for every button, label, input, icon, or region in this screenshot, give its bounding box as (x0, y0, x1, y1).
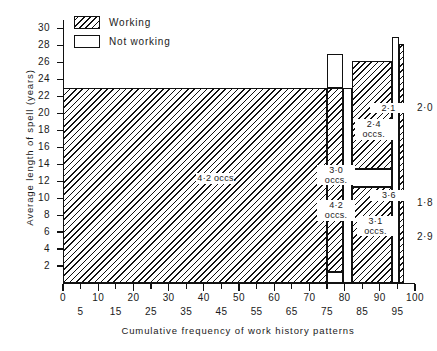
bar-segment (327, 180, 343, 272)
x-tick-80 (344, 284, 345, 291)
y-tick-label-12: 12 (22, 175, 50, 186)
label-21: 2·1 (370, 103, 408, 114)
x-tick-label-55: 55 (245, 306, 269, 317)
y-tick-label-10: 10 (22, 192, 50, 203)
x-tick-15 (115, 284, 116, 289)
x-tick-label-50: 50 (227, 292, 251, 303)
x-tick-40 (203, 284, 204, 291)
bar-segment (399, 44, 404, 283)
x-tick-label-90: 90 (368, 292, 392, 303)
label-24-occs-line1: 2·4 (355, 119, 393, 130)
y-tick-label-2: 2 (22, 260, 50, 271)
y-tick-label-28: 28 (22, 39, 50, 50)
label-42-occs-line2: occs. (317, 210, 355, 221)
y-tick-label-14: 14 (22, 158, 50, 169)
x-tick-label-45: 45 (209, 306, 233, 317)
x-tick-85 (362, 284, 363, 289)
x-tick-label-75: 75 (315, 306, 339, 317)
legend: Working Not working (74, 14, 171, 52)
x-tick-50 (238, 284, 239, 291)
x-tick-30 (168, 284, 169, 291)
bar-segment (392, 37, 399, 283)
legend-label-working: Working (109, 17, 151, 28)
x-tick-label-65: 65 (280, 306, 304, 317)
x-tick-60 (274, 284, 275, 291)
label-right-18: 1·8 (417, 197, 433, 208)
label-30-occs-line2: occs. (317, 175, 355, 186)
x-tick-label-100: 100 (403, 292, 427, 303)
legend-swatch-working (74, 16, 100, 29)
x-tick-label-25: 25 (139, 306, 163, 317)
y-tick-label-6: 6 (22, 226, 50, 237)
legend-swatch-not-working (74, 35, 100, 48)
bar-segment (327, 54, 343, 88)
label-right-29: 2·9 (417, 231, 433, 242)
label-right-20: 2·0 (417, 102, 433, 113)
x-tick-5 (80, 284, 81, 289)
x-tick-45 (221, 284, 222, 289)
legend-label-not-working: Not working (109, 36, 171, 47)
x-tick-95 (397, 284, 398, 289)
y-tick-label-26: 26 (22, 56, 50, 67)
label-31-occs-line2: occs. (357, 226, 395, 237)
x-tick-70 (309, 284, 310, 291)
y-tick-label-24: 24 (22, 73, 50, 84)
x-tick-label-10: 10 (86, 292, 110, 303)
legend-item-working: Working (74, 14, 171, 30)
x-tick-35 (186, 284, 187, 289)
bar-segment (352, 61, 392, 170)
label-36: 3·6 (370, 190, 408, 201)
y-tick-label-22: 22 (22, 90, 50, 101)
x-tick-label-60: 60 (262, 292, 286, 303)
x-tick-label-40: 40 (192, 292, 216, 303)
bar-segment (352, 169, 392, 187)
x-tick-100 (414, 284, 415, 291)
plot-area (63, 20, 415, 283)
bar-segment (343, 88, 352, 283)
x-tick-10 (98, 284, 99, 291)
x-tick-25 (150, 284, 151, 289)
legend-item-not-working: Not working (74, 33, 171, 49)
label-24-occs-line2: occs. (355, 129, 393, 140)
y-tick-label-8: 8 (22, 209, 50, 220)
x-tick-label-0: 0 (51, 292, 75, 303)
x-tick-label-85: 85 (350, 306, 374, 317)
x-tick-label-95: 95 (385, 306, 409, 317)
y-tick-label-18: 18 (22, 124, 50, 135)
x-tick-65 (291, 284, 292, 289)
x-tick-label-20: 20 (121, 292, 145, 303)
x-tick-label-5: 5 (69, 306, 93, 317)
label-30-occs-line1: 3·0 (317, 165, 355, 176)
x-tick-label-35: 35 (174, 306, 198, 317)
label-31-occs-line1: 3·1 (357, 216, 395, 227)
x-tick-75 (326, 284, 327, 289)
y-tick-label-16: 16 (22, 141, 50, 152)
x-tick-label-15: 15 (104, 306, 128, 317)
x-tick-label-80: 80 (333, 292, 357, 303)
x-axis-title: Cumulative frequency of work history pat… (63, 325, 413, 336)
label-main-42-occs: 4·2 occs. (196, 173, 234, 184)
bar-segment (327, 272, 343, 283)
x-tick-55 (256, 284, 257, 289)
y-tick-label-30: 30 (22, 22, 50, 33)
x-tick-90 (379, 284, 380, 291)
x-tick-0 (62, 284, 63, 291)
chart-figure: Average length of spell (years) Cumulati… (0, 0, 437, 351)
y-tick-label-20: 20 (22, 107, 50, 118)
x-tick-20 (133, 284, 134, 291)
x-tick-label-70: 70 (297, 292, 321, 303)
label-42-occs-line1: 4·2 (317, 200, 355, 211)
x-tick-label-30: 30 (157, 292, 181, 303)
bar-segment (63, 88, 327, 283)
y-tick-label-4: 4 (22, 243, 50, 254)
